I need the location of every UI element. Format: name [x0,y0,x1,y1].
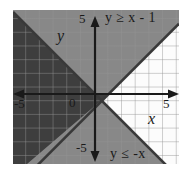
x-axis-label: x [148,111,155,127]
inequality-label-top: y ≥ x - 1 [105,11,156,25]
inequality-label-bottom: y ≤ -x [110,147,146,161]
y-axis-min-tick-label: -5 [76,141,87,154]
x-axis-max-tick-label: 5 [163,97,170,110]
coordinate-plane [13,10,179,164]
y-axis-label: y [57,28,64,44]
x-axis-right-arrowhead [168,90,179,99]
origin-label: 0 [69,96,76,109]
y-axis-max-tick-label: 5 [79,12,86,25]
axes-and-boundary-lines [13,10,179,164]
y-axis-bottom-arrowhead [91,151,100,162]
x-axis-min-tick-label: -5 [14,97,25,110]
inequality-graph-figure: 5 -5 -5 5 0 y x y ≥ x - 1 y ≤ -x [0,0,185,178]
y-axis-top-arrowhead [91,16,100,27]
